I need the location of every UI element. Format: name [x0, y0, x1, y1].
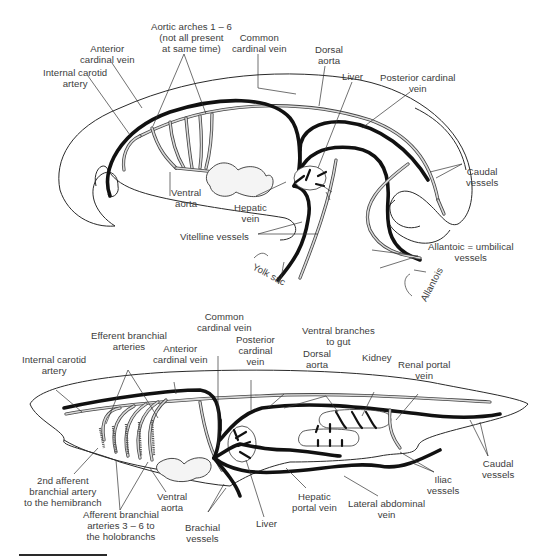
label-common-cardinal-vein-bottom: Common cardinal vein	[197, 311, 252, 333]
label-line: to gut	[302, 336, 375, 347]
label-line: Aortic arches 1 – 6	[151, 21, 232, 32]
label-aortic-arches: Aortic arches 1 – 6 (not all present at …	[151, 21, 232, 54]
label-line: aorta	[157, 502, 187, 513]
label-dorsal-aorta: Dorsal aorta	[315, 44, 343, 66]
label-line: Dorsal	[303, 348, 331, 359]
label-brachial-vessels: Brachial vessels	[185, 522, 220, 544]
label-second-afferent-branchial-artery: 2nd afferent branchial artery to the hem…	[24, 475, 102, 508]
label-internal-carotid-artery-bottom: Internal carotid artery	[22, 354, 86, 376]
label-caudal-vessels-top: Caudal vessels	[466, 166, 498, 188]
label-hepatic-portal-vein: Hepatic portal vein	[292, 491, 337, 513]
label-line: Brachial	[185, 522, 220, 533]
footnote-rule	[19, 554, 107, 556]
circulatory-comparison-figure: Aortic arches 1 – 6 (not all present at …	[0, 0, 549, 560]
label-line: cardinal	[236, 345, 275, 356]
label-line: Posterior cardinal	[380, 72, 456, 83]
label-line: Kidney	[362, 352, 392, 363]
label-kidney: Kidney	[362, 352, 392, 363]
label-internal-carotid-artery: Internal carotid artery	[43, 67, 107, 89]
label-line: aorta	[303, 359, 331, 370]
label-line: Caudal	[466, 166, 498, 177]
label-line: at same time)	[151, 43, 232, 54]
label-line: cardinal vein	[153, 354, 208, 365]
label-line: vessels	[466, 177, 498, 188]
label-line: cardinal vein	[197, 322, 252, 333]
label-line: Iliac	[427, 474, 459, 485]
label-line: vein	[236, 356, 275, 367]
label-line: vessels	[482, 469, 514, 480]
label-ventral-aorta-top: Ventral aorta	[171, 187, 201, 209]
label-line: branchial artery	[24, 486, 102, 497]
label-dorsal-aorta-bottom: Dorsal aorta	[303, 348, 331, 370]
label-line: portal vein	[292, 502, 337, 513]
label-line: vein	[380, 83, 456, 94]
label-anterior-cardinal-vein-bottom: Anterior cardinal vein	[153, 343, 208, 365]
label-line: to the hemibranch	[24, 497, 102, 508]
label-allantoic-umbilical-vessels: Allantoic = umbilical vessels	[428, 241, 514, 263]
label-line: Common	[232, 32, 287, 43]
label-line: Ventral	[171, 187, 201, 198]
label-line: Anterior	[153, 343, 208, 354]
label-line: aorta	[171, 198, 201, 209]
label-line: Afferent branchial	[83, 509, 159, 520]
aortic-arches	[152, 114, 212, 168]
label-iliac-vessels: Iliac vessels	[427, 474, 459, 496]
label-line: vein	[348, 509, 425, 520]
label-caudal-vessels-bottom: Caudal vessels	[482, 458, 514, 480]
label-ventral-branches-to-gut: Ventral branches to gut	[302, 325, 375, 347]
label-line: vein	[398, 370, 450, 381]
label-afferent-branchial-arteries-3-6: Afferent branchial arteries 3 – 6 to the…	[83, 509, 159, 542]
label-line: artery	[22, 365, 86, 376]
fish-body-outline	[30, 370, 528, 486]
label-anterior-cardinal-vein: Anterior cardinal vein	[80, 43, 135, 65]
label-line: arteries 3 – 6 to	[83, 520, 159, 531]
label-line: Anterior	[80, 43, 135, 54]
label-line: 2nd afferent	[24, 475, 102, 486]
label-line: Liver	[342, 71, 363, 82]
label-line: Posterior	[236, 334, 275, 345]
label-line: Lateral abdominal	[348, 498, 425, 509]
label-hepatic-vein: Hepatic vein	[234, 202, 267, 224]
label-line: Internal carotid	[43, 67, 107, 78]
label-line: vessels	[185, 533, 220, 544]
label-posterior-cardinal-vein-bottom: Posterior cardinal vein	[236, 334, 275, 367]
label-lateral-abdominal-vein: Lateral abdominal vein	[348, 498, 425, 520]
label-line: Hepatic	[234, 202, 267, 213]
label-line: the holobranchs	[83, 531, 159, 542]
label-liver-top: Liver	[342, 71, 363, 82]
label-renal-portal-vein: Renal portal vein	[398, 359, 450, 381]
label-line: cardinal vein	[80, 54, 135, 65]
label-line: Efferent branchial	[91, 330, 167, 341]
fish-heart	[157, 458, 212, 482]
label-line: Hepatic	[292, 491, 337, 502]
embryo-heart	[206, 163, 273, 197]
fish-gut	[299, 429, 359, 446]
label-line: Liver	[256, 518, 277, 529]
label-line: vein	[234, 213, 267, 224]
label-line: (not all present	[151, 32, 232, 43]
label-line: vessels	[428, 252, 514, 263]
label-posterior-cardinal-vein: Posterior cardinal vein	[380, 72, 456, 94]
label-line: artery	[43, 78, 107, 89]
label-line: Vitelline vessels	[180, 231, 249, 242]
label-line: Common	[197, 311, 252, 322]
label-line: Dorsal	[315, 44, 343, 55]
label-vitelline-vessels: Vitelline vessels	[180, 231, 249, 242]
label-line: Internal carotid	[22, 354, 86, 365]
label-line: Ventral branches	[302, 325, 375, 336]
label-line: Ventral	[157, 491, 187, 502]
label-line: vessels	[427, 485, 459, 496]
label-line: Renal portal	[398, 359, 450, 370]
label-line: aorta	[315, 55, 343, 66]
label-line: Caudal	[482, 458, 514, 469]
label-liver-bottom: Liver	[256, 518, 277, 529]
label-line: cardinal vein	[232, 43, 287, 54]
label-common-cardinal-vein: Common cardinal vein	[232, 32, 287, 54]
label-line: Allantoic = umbilical	[428, 241, 514, 252]
label-ventral-aorta-bottom: Ventral aorta	[157, 491, 187, 513]
